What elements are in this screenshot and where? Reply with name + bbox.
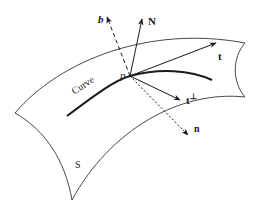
surface-right-edge [235,43,245,97]
label-n: n [194,124,200,134]
label-t-perp: t⊥ [186,93,197,106]
surface-frame-diagram: b N t t⊥ n p Curve S [0,0,257,212]
surface-left-edge [15,113,72,200]
label-b: b [98,14,104,25]
diagram-graphics [0,0,257,212]
tangent-perp-vector [130,76,180,100]
label-surface-S: S [75,160,81,170]
label-t: t [218,51,222,62]
normal-vector-N [130,19,142,76]
surface-patch [15,38,245,200]
label-p: p [120,70,126,81]
label-t-perp-superscript: ⊥ [190,92,197,101]
surface-bottom-edge [72,96,245,200]
label-N: N [148,16,156,27]
